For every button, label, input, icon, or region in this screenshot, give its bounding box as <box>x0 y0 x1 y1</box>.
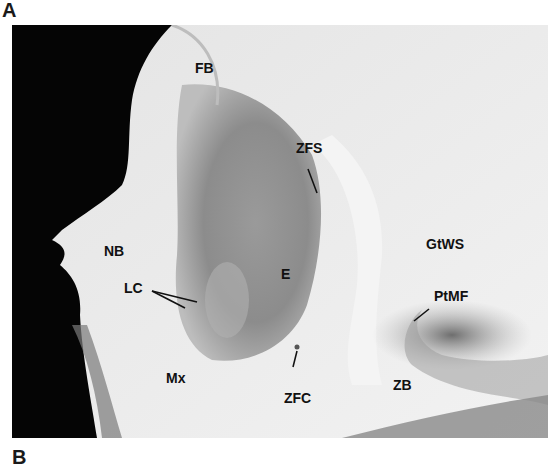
panel-label-a: A <box>2 0 16 20</box>
label-lacrimal-crest: LC <box>124 281 143 295</box>
label-maxilla: Mx <box>166 371 185 385</box>
panel-label-b: B <box>12 447 26 467</box>
label-zygomatic-bone: ZB <box>393 378 412 392</box>
skull-photograph: FB ZFS NB E GtWS LC PtMF Mx ZFC ZB <box>12 25 548 438</box>
label-zygomaticofrontal-suture: ZFS <box>296 141 322 155</box>
label-frontal-bone: FB <box>195 61 214 75</box>
label-ethmoid: E <box>281 267 290 281</box>
label-zygomaticofacial-canal: ZFC <box>284 391 311 405</box>
bone-illustration <box>12 25 548 438</box>
label-pterygomaxillary-fissure: PtMF <box>434 289 468 303</box>
label-greater-wing-sphenoid: GtWS <box>426 237 464 251</box>
label-nasal-bone: NB <box>104 244 124 258</box>
